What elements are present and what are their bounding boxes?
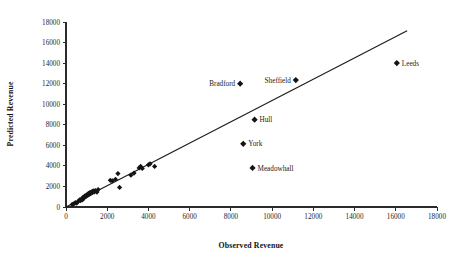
x-tick-label: 10000 — [263, 213, 281, 221]
y-axis: 0200040006000800010000120001400016000180… — [42, 19, 66, 212]
labeled-point-marker — [237, 81, 243, 87]
labeled-point-marker — [251, 117, 257, 123]
x-tick-label: 0 — [64, 213, 68, 221]
point-label-leeds: Leeds — [402, 60, 419, 68]
x-tick-label: 2000 — [100, 213, 115, 221]
x-tick-label: 12000 — [304, 213, 322, 221]
point-label-sheffield: Sheffield — [265, 77, 292, 85]
y-tick-label: 12000 — [42, 80, 60, 88]
x-axis-title: Observed Revenue — [219, 241, 284, 250]
point-label-hull: Hull — [260, 116, 273, 124]
point-label-bradford: Bradford — [209, 80, 235, 88]
data-point-marker — [152, 164, 157, 169]
y-tick-label: 6000 — [46, 142, 61, 150]
scatter-chart: 0200040006000800010000120001400016000180… — [0, 0, 465, 261]
regression-line-path — [66, 31, 407, 207]
data-point-marker — [115, 171, 120, 176]
x-tick-label: 8000 — [224, 213, 239, 221]
x-tick-label: 4000 — [141, 213, 156, 221]
y-tick-label: 14000 — [42, 60, 60, 68]
labeled-point-marker — [249, 165, 255, 171]
y-tick-label: 10000 — [42, 101, 60, 109]
y-tick-label: 16000 — [42, 39, 60, 47]
labeled-point-marker — [394, 60, 400, 66]
data-points — [70, 161, 158, 207]
y-tick-label: 18000 — [42, 19, 60, 27]
x-tick-label: 6000 — [182, 213, 197, 221]
point-label-york: York — [248, 140, 262, 148]
chart-canvas: 0200040006000800010000120001400016000180… — [0, 0, 465, 261]
x-axis: 0200040006000800010000120001400016000180… — [64, 207, 446, 221]
x-tick-label: 18000 — [428, 213, 446, 221]
labeled-point-marker — [293, 77, 299, 83]
x-tick-label: 14000 — [346, 213, 364, 221]
data-point-marker — [117, 185, 122, 190]
x-tick-label: 16000 — [387, 213, 405, 221]
y-tick-label: 8000 — [46, 121, 61, 129]
y-axis-title: Predicted Revenue — [6, 81, 15, 146]
y-tick-label: 4000 — [46, 162, 61, 170]
regression-line — [66, 31, 407, 207]
y-tick-label: 0 — [56, 204, 60, 212]
labeled-point-marker — [240, 141, 246, 147]
y-tick-label: 2000 — [46, 183, 61, 191]
point-label-meadowhall: Meadowhall — [258, 165, 294, 173]
